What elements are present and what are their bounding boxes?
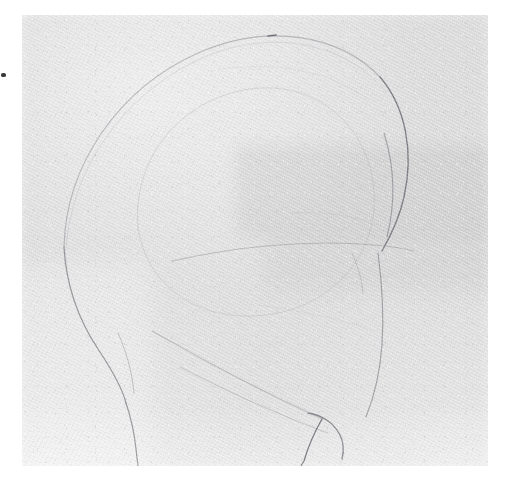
stroke-ear-notch (352, 253, 363, 293)
stroke-neck-back-line-upper (118, 333, 134, 393)
paper-grain-overlay (22, 15, 488, 466)
paper-tone-band-low (264, 231, 488, 290)
stroke-cranium-outer-arc-echo (66, 42, 376, 251)
stroke-cranium-right-descent-double (384, 133, 393, 237)
paper-speckle-texture (22, 15, 488, 466)
stroke-cranium-inner-ball (137, 88, 374, 316)
stroke-chin-curve (308, 413, 343, 459)
paper-tone-highlight-left (22, 263, 152, 466)
pencil-sketch-layer (22, 15, 488, 466)
paper-sheet (22, 15, 488, 466)
stroke-face-front-plane (366, 253, 383, 417)
paper-edge-shading (22, 15, 488, 466)
mark-edge-tick-top (268, 35, 276, 36)
stroke-throat-line (301, 419, 322, 466)
paper-tone-band-mid (236, 146, 488, 236)
stroke-cranium-right-descent (380, 77, 408, 251)
paper-tone-gradient (22, 15, 488, 466)
stroke-jaw-lower-line (180, 367, 328, 433)
paper-tone-bottom-highlight (22, 403, 488, 466)
paper-grain-texture (22, 15, 488, 466)
stroke-back-of-head-contour (64, 247, 126, 403)
stroke-neck-back-line (126, 403, 138, 466)
mark-edge-speck-left (1, 73, 6, 77)
stroke-brow-horizontal-line (172, 243, 414, 261)
stroke-ghost-cheek (258, 305, 374, 331)
stroke-cranium-outer-arc (64, 36, 380, 247)
stroke-ghost-temple (290, 213, 376, 226)
stroke-jaw-angle-line (152, 331, 322, 419)
stroke-ghost-crown (222, 67, 368, 99)
scan-canvas: Untitled pencil study Human head in righ… (0, 0, 505, 485)
